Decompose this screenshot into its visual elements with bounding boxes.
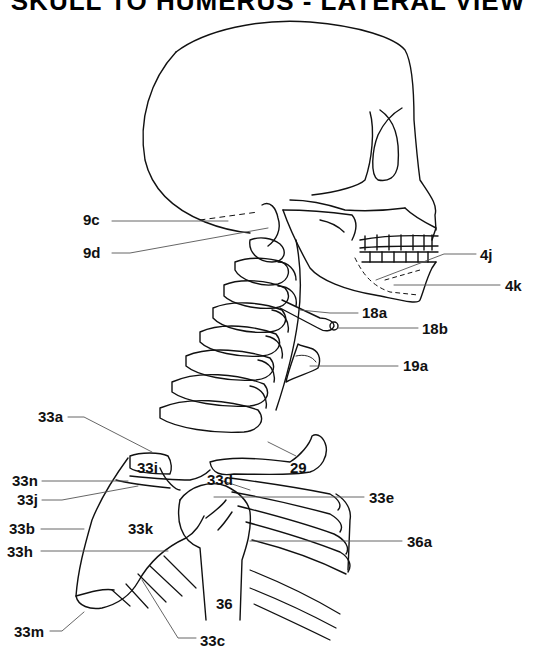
thyroid-cartilage xyxy=(286,344,320,382)
label-33h: 33h xyxy=(7,544,33,559)
label-18a: 18a xyxy=(362,305,387,320)
humerus xyxy=(179,484,251,620)
clavicle-and-ribs xyxy=(210,435,350,574)
label-33m: 33m xyxy=(14,624,44,639)
label-9c: 9c xyxy=(83,212,100,227)
label-33b: 33b xyxy=(9,521,35,536)
label-33e: 33e xyxy=(369,490,394,505)
label-33i: 33i xyxy=(137,460,158,475)
label-18b: 18b xyxy=(422,321,448,336)
label-33d: 33d xyxy=(207,472,233,487)
skull xyxy=(143,21,438,302)
label-33n: 33n xyxy=(12,473,38,488)
skeleton-line-drawing xyxy=(0,0,536,657)
label-9d: 9d xyxy=(83,245,101,260)
label-33j: 33j xyxy=(17,492,38,507)
label-36: 36 xyxy=(216,596,233,611)
label-36a: 36a xyxy=(407,534,432,549)
label-33c: 33c xyxy=(200,633,225,648)
label-4k: 4k xyxy=(505,278,522,293)
label-19a: 19a xyxy=(403,358,428,373)
label-33a: 33a xyxy=(38,409,63,424)
label-29: 29 xyxy=(290,460,307,475)
label-33k: 33k xyxy=(128,521,153,536)
label-4j: 4j xyxy=(480,247,493,262)
cervical-spine xyxy=(160,203,300,432)
